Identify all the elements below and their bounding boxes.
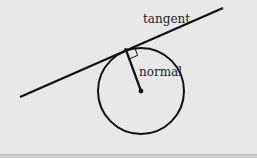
tangent-line <box>20 8 223 97</box>
normal-label: normal <box>139 65 182 79</box>
tangent-point-dot <box>124 48 128 52</box>
tangent-label: tangent <box>143 12 190 26</box>
bottom-border <box>0 154 257 158</box>
diagram-svg: tangent normal <box>0 0 257 158</box>
center-dot <box>139 89 144 94</box>
diagram-canvas: tangent normal <box>0 0 257 158</box>
